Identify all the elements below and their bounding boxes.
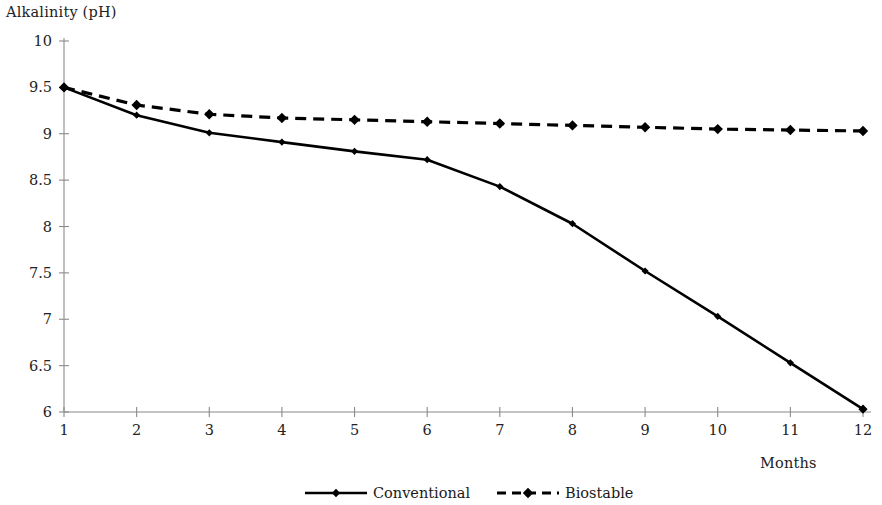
- x-tick-label: 3: [205, 422, 214, 438]
- x-tick-label: 4: [277, 422, 286, 438]
- y-tick-label: 9: [43, 126, 52, 142]
- legend-marker-biostable: [523, 488, 533, 498]
- series-line-conventional: [64, 87, 863, 409]
- legend-marker-conventional: [332, 489, 340, 497]
- data-series-group: [59, 82, 868, 414]
- x-tick-label: 5: [350, 422, 359, 438]
- series-line-biostable: [64, 87, 863, 131]
- y-tick-label: 7.5: [29, 265, 52, 281]
- y-tick-label: 7: [43, 311, 52, 327]
- data-point-marker-biostable: [858, 126, 868, 136]
- y-tick-label: 9.5: [29, 79, 52, 95]
- x-tick-label: 1: [59, 422, 68, 438]
- y-tick-label: 8.5: [29, 172, 52, 188]
- data-point-marker-biostable: [640, 122, 650, 132]
- data-point-marker-conventional: [424, 156, 431, 163]
- x-tick-label: 2: [132, 422, 141, 438]
- data-point-marker-biostable: [59, 82, 69, 92]
- line-chart-plot: 66.577.588.599.510 123456789101112 Conve…: [0, 0, 882, 505]
- legend-label-biostable: Biostable: [565, 485, 633, 501]
- y-tick-label: 6.5: [29, 358, 52, 374]
- data-point-marker-biostable: [204, 109, 214, 119]
- x-tick-label: 8: [568, 422, 577, 438]
- x-tick-label: 7: [495, 422, 504, 438]
- chart-axes: [64, 38, 871, 412]
- data-point-marker-biostable: [495, 118, 505, 128]
- data-point-marker-conventional: [133, 112, 140, 119]
- y-tick-label: 8: [43, 219, 52, 235]
- data-point-marker-conventional: [351, 148, 358, 155]
- x-tick-label: 11: [781, 422, 799, 438]
- data-point-marker-biostable: [277, 113, 287, 123]
- y-tick-label: 6: [43, 404, 52, 420]
- y-tick-label: 10: [34, 33, 52, 49]
- data-point-marker-biostable: [422, 116, 432, 126]
- data-point-marker-biostable: [567, 120, 577, 130]
- data-point-marker-conventional: [206, 129, 213, 136]
- data-point-marker-conventional: [278, 138, 285, 145]
- x-tick-label: 12: [854, 422, 872, 438]
- chart-legend: ConventionalBiostable: [305, 485, 633, 501]
- legend-label-conventional: Conventional: [373, 485, 470, 501]
- data-point-marker-biostable: [785, 125, 795, 135]
- x-tick-label: 9: [640, 422, 649, 438]
- data-point-marker-biostable: [349, 115, 359, 125]
- data-point-marker-biostable: [131, 100, 141, 110]
- data-point-marker-biostable: [713, 124, 723, 134]
- x-tick-label: 6: [423, 422, 432, 438]
- chart-container: Alkalinity (pH) Months 66.577.588.599.51…: [0, 0, 882, 505]
- x-tick-label: 10: [709, 422, 727, 438]
